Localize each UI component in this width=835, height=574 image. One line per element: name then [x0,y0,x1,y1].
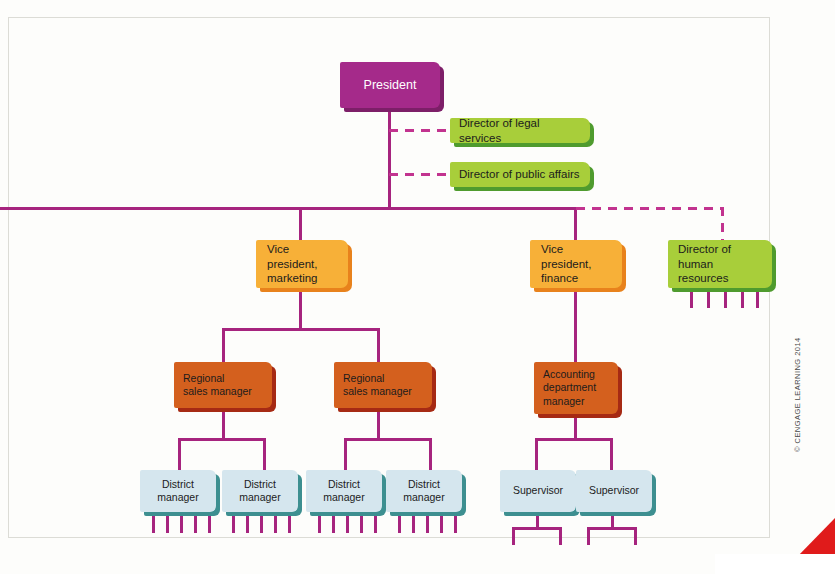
connector-rsm2-down [377,408,380,440]
node-vp-finance-label-line2: finance [541,271,611,286]
node-regional-sales-manager-1-label-line2: sales manager [183,385,263,398]
stem-dm4-1 [398,512,401,533]
node-district-manager-4-label-line1: District [391,478,457,491]
stem-hr-3 [724,288,727,308]
node-vp-finance[interactable]: Vice president, finance [530,240,622,288]
node-supervisor-2-label: Supervisor [581,484,647,497]
connector-vpfin-down [574,288,577,364]
connector-rsm2-drop [377,328,380,364]
stem-dm4-4 [440,512,443,533]
connector-drop-vp-marketing [299,207,302,243]
stem-dm3-1 [318,512,321,533]
node-director-legal-services-label: Director of legal services [459,116,581,145]
node-vp-marketing-label-line1: Vice president, [267,242,337,271]
connector-dashed-hr-horizontal [576,207,724,210]
node-president-label: President [346,77,434,93]
stem-sup2-b [634,527,637,545]
stem-dm2-3 [260,512,263,533]
connector-sup2-drop [610,438,613,472]
connector-dashed-public-affairs [389,173,451,176]
stem-dm1-5 [208,512,211,533]
connector-dashed-hr-vertical [721,207,724,243]
stem-dm1-2 [166,512,169,533]
node-director-public-affairs[interactable]: Director of public affairs [450,162,590,187]
node-district-manager-2[interactable]: District manager [222,470,298,512]
page-bottom-strip [715,554,835,574]
node-vp-finance-label-line1: Vice president, [541,242,611,271]
connector-main-horizontal-bar [0,207,578,210]
node-supervisor-1-label: Supervisor [505,484,571,497]
node-director-human-resources[interactable]: Director of human resources [668,240,772,288]
connector-dm1-drop [178,438,181,472]
stem-sup2-a [587,527,590,545]
connector-acct-cross [535,438,613,441]
stem-dm1-3 [180,512,183,533]
node-regional-sales-manager-2-label-line1: Regional [343,372,423,385]
connector-president-trunk [388,108,391,210]
connector-dm2-drop [263,438,266,472]
stem-hr-1 [690,288,693,308]
node-accounting-department-manager-label-line3: manager [543,395,609,408]
connector-rsm1-cross [178,438,266,441]
node-vp-marketing-label-line2: marketing [267,271,337,286]
stem-dm4-3 [426,512,429,533]
node-director-legal-services[interactable]: Director of legal services [450,118,590,143]
connector-dm3-drop [344,438,347,472]
node-president[interactable]: President [340,62,440,108]
connector-dm4-drop [429,438,432,472]
connector-rsm1-down [222,408,225,440]
node-supervisor-2[interactable]: Supervisor [576,470,652,512]
connector-acct-down [574,414,577,440]
node-accounting-department-manager[interactable]: Accounting department manager [534,362,618,414]
node-accounting-department-manager-label-line2: department [543,381,609,394]
node-district-manager-3-label-line1: District [311,478,377,491]
stem-hr-2 [707,288,710,308]
stem-dm1-1 [152,512,155,533]
node-district-manager-2-label-line2: manager [227,491,293,504]
stem-dm2-5 [288,512,291,533]
node-district-manager-1-label-line2: manager [145,491,211,504]
node-district-manager-3[interactable]: District manager [306,470,382,512]
node-director-human-resources-label-line1: Director of [678,242,762,257]
connector-rsm2-cross [344,438,432,441]
node-accounting-department-manager-label-line1: Accounting [543,368,609,381]
connector-rsm1-drop [222,328,225,364]
stem-dm3-5 [374,512,377,533]
connector-vpmkt-cross [222,328,380,331]
node-district-manager-3-label-line2: manager [311,491,377,504]
copyright-notice: © CENGAGE LEARNING 2014 [793,342,802,452]
node-regional-sales-manager-1-label-line1: Regional [183,372,263,385]
node-district-manager-4-label-line2: manager [391,491,457,504]
org-chart-page: President Director of legal services Dir… [0,0,835,574]
node-director-public-affairs-label: Director of public affairs [459,167,581,182]
node-director-human-resources-label-line2: human resources [678,257,762,286]
connector-sup1-drop [535,438,538,472]
stem-sup1-b [559,527,562,545]
node-district-manager-2-label-line1: District [227,478,293,491]
node-vp-marketing[interactable]: Vice president, marketing [256,240,348,288]
stem-dm3-2 [332,512,335,533]
node-regional-sales-manager-1[interactable]: Regional sales manager [174,362,272,408]
node-district-manager-1[interactable]: District manager [140,470,216,512]
connector-drop-vp-finance [574,207,577,243]
node-district-manager-1-label-line1: District [145,478,211,491]
connector-sup1-bracket [512,527,562,530]
node-regional-sales-manager-2[interactable]: Regional sales manager [334,362,432,408]
stem-dm2-4 [274,512,277,533]
node-supervisor-1[interactable]: Supervisor [500,470,576,512]
stem-dm2-1 [232,512,235,533]
stem-hr-5 [756,288,759,308]
stem-dm1-4 [194,512,197,533]
stem-dm4-5 [454,512,457,533]
stem-dm3-3 [346,512,349,533]
stem-hr-4 [741,288,744,308]
stem-dm2-2 [246,512,249,533]
stem-dm4-2 [412,512,415,533]
connector-sup2-bracket [587,527,637,530]
node-district-manager-4[interactable]: District manager [386,470,462,512]
stem-dm3-4 [360,512,363,533]
stem-sup1-a [512,527,515,545]
connector-vpmkt-down [299,288,302,330]
connector-dashed-legal [389,129,451,132]
node-regional-sales-manager-2-label-line2: sales manager [343,385,423,398]
